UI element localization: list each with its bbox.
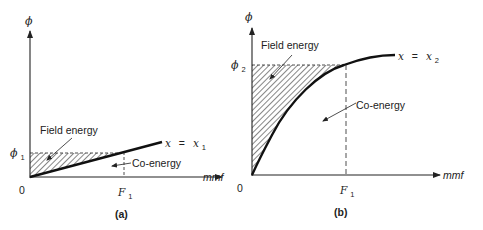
phi1-label: ϕ 1: [10, 147, 25, 162]
energy-coenergy-figure: ϕ Field energy Co-energy x = x 1 ϕ 1 0 F…: [0, 0, 483, 230]
co-energy-label-a: Co-energy: [132, 157, 182, 169]
f1-label-a: F 1: [117, 186, 132, 201]
y-axis-label-b: ϕ: [245, 11, 253, 24]
curve-label-b: x = x 2: [398, 50, 439, 65]
caption-b: (b): [334, 206, 347, 218]
curve-label-a: x = x 1: [165, 137, 206, 152]
phi2-label: ϕ 2: [231, 59, 246, 74]
field-energy-label-a: Field energy: [40, 124, 99, 136]
f1-label-b: F 1: [339, 184, 354, 199]
field-energy-label-b: Field energy: [261, 39, 320, 51]
origin-label-b: 0: [237, 182, 243, 194]
panel-a: ϕ Field energy Co-energy x = x 1 ϕ 1 0 F…: [10, 15, 224, 220]
caption-a: (a): [115, 208, 128, 220]
co-energy-label-b: Co-energy: [356, 99, 406, 111]
panel-b: ϕ Field energy Co-energy x = x 2 ϕ 2 0 F…: [231, 11, 464, 218]
origin-label-a: 0: [19, 184, 25, 196]
y-axis-label-a: ϕ: [25, 15, 33, 28]
x-axis-label-a: mmf: [203, 171, 224, 183]
co-energy-pointer-b: [323, 103, 356, 121]
field-energy-region-b: [252, 65, 344, 175]
co-energy-pointer-a: [112, 163, 131, 166]
x-axis-label-b: mmf: [443, 169, 464, 181]
